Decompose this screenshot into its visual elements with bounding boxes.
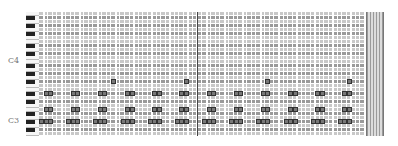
note-e3[interactable] [211, 91, 216, 96]
black-key[interactable] [26, 112, 35, 116]
white-key-divider [26, 107, 39, 108]
note-e3[interactable] [347, 91, 352, 96]
black-key[interactable] [26, 128, 35, 132]
grid-column-line [83, 12, 84, 136]
grid-column-line [251, 12, 252, 136]
grid-column-line [88, 12, 89, 136]
note-a2[interactable] [157, 119, 162, 124]
black-key[interactable] [26, 44, 35, 48]
black-key[interactable] [26, 92, 35, 96]
note-c3[interactable] [238, 107, 243, 112]
grid-column-line [124, 12, 125, 136]
note-e3[interactable] [75, 91, 80, 96]
note-a2[interactable] [184, 119, 189, 124]
playhead[interactable] [197, 12, 198, 136]
grid-column-line [52, 12, 53, 136]
black-key[interactable] [26, 120, 35, 124]
note-e3[interactable] [320, 91, 325, 96]
note-c3[interactable] [265, 107, 270, 112]
note-g4[interactable] [265, 79, 270, 84]
note-a2[interactable] [238, 119, 243, 124]
grid-column-line [156, 12, 157, 136]
note-a2[interactable] [48, 119, 53, 124]
note-a2[interactable] [102, 119, 107, 124]
note-a2[interactable] [75, 119, 80, 124]
note-g4[interactable] [111, 79, 116, 84]
note-e3[interactable] [238, 91, 243, 96]
octave-label-c4: C4 [8, 56, 19, 65]
note-c3[interactable] [347, 107, 352, 112]
grid-column-line [151, 12, 153, 136]
grid-column-line [201, 12, 202, 136]
note-a2[interactable] [320, 119, 325, 124]
note-g4[interactable] [184, 79, 189, 84]
grid-column-line [283, 12, 284, 136]
note-e3[interactable] [265, 91, 270, 96]
grid-column-line [160, 12, 161, 136]
grid-column-line [264, 12, 265, 136]
note-a2[interactable] [130, 119, 135, 124]
note-c3[interactable] [130, 107, 135, 112]
note-e3[interactable] [293, 91, 298, 96]
grid-column-line [278, 12, 280, 136]
grid-column-line [119, 12, 120, 136]
grid-column-line [346, 12, 347, 136]
grid-column-line [79, 12, 81, 136]
note-e3[interactable] [184, 91, 189, 96]
note-a2[interactable] [293, 119, 298, 124]
grid-column-line [61, 12, 63, 136]
note-a2[interactable] [211, 119, 216, 124]
black-key[interactable] [26, 100, 35, 104]
note-e3[interactable] [102, 91, 107, 96]
black-key[interactable] [26, 52, 35, 56]
grid-column-line [169, 12, 171, 136]
note-e3[interactable] [130, 91, 135, 96]
grid-column-line [192, 12, 193, 136]
grid-column-line [178, 12, 179, 136]
grid-column-line [147, 12, 148, 136]
black-key[interactable] [26, 16, 35, 20]
note-c3[interactable] [157, 107, 162, 112]
note-e3[interactable] [157, 91, 162, 96]
vertical-scrollbar[interactable] [366, 12, 384, 136]
grid-column-line [215, 12, 216, 136]
grid-column-line [305, 12, 306, 136]
note-c3[interactable] [75, 107, 80, 112]
piano-keyboard[interactable] [26, 12, 40, 136]
note-e3[interactable] [48, 91, 53, 96]
note-c3[interactable] [320, 107, 325, 112]
note-g4[interactable] [347, 79, 352, 84]
grid-column-line [255, 12, 256, 136]
note-a2[interactable] [265, 119, 270, 124]
white-key-divider [26, 87, 39, 88]
note-c3[interactable] [48, 107, 53, 112]
grid-column-line [237, 12, 238, 136]
black-key[interactable] [26, 64, 35, 68]
grid-column-line [296, 12, 298, 136]
grid-column-line [43, 12, 45, 136]
note-grid[interactable] [39, 12, 365, 136]
grid-column-line [65, 12, 66, 136]
grid-column-line [269, 12, 270, 136]
grid-column-line [110, 12, 111, 136]
grid-column-line [332, 12, 334, 136]
grid-column-line [142, 12, 143, 136]
grid-column-line [337, 12, 338, 136]
grid-column-line [115, 12, 117, 136]
grid-column-line [233, 12, 234, 136]
grid-column-line [273, 12, 274, 136]
grid-column-line [183, 12, 184, 136]
note-c3[interactable] [293, 107, 298, 112]
note-c3[interactable] [102, 107, 107, 112]
black-key[interactable] [26, 72, 35, 76]
grid-column-line [228, 12, 229, 136]
black-key[interactable] [26, 24, 35, 28]
note-a2[interactable] [347, 119, 352, 124]
grid-column-line [355, 12, 356, 136]
note-c3[interactable] [184, 107, 189, 112]
grid-column-line [70, 12, 71, 136]
black-key[interactable] [26, 80, 35, 84]
black-key[interactable] [26, 32, 35, 36]
white-key-divider [26, 135, 39, 136]
note-c3[interactable] [211, 107, 216, 112]
